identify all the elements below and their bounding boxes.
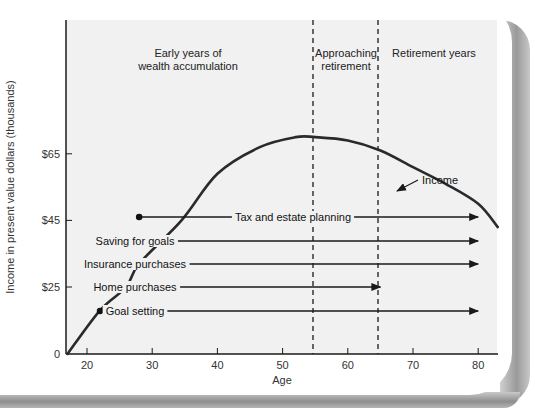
plot-area [66,20,497,354]
x-tick-label: 50 [276,359,288,371]
activity-label: Saving for goals [96,235,175,247]
region-label-approaching-line2: retirement [321,60,371,72]
income-lifecycle-chart: 20304050607080 0$25$45$65 Age Income in … [0,0,535,411]
activity-start-dot [136,214,143,221]
x-tick-label: 80 [472,359,484,371]
region-label-early-line2: wealth accumulation [137,60,238,72]
region-label-approaching-line1: Approaching [315,47,377,59]
x-tick-label: 30 [146,359,158,371]
y-tick-label: $65 [42,148,60,160]
activity-label: Tax and estate planning [235,211,351,223]
x-axis-title: Age [272,374,292,386]
region-label-early-line1: Early years of [154,47,222,59]
activity-label: Insurance purchases [84,258,187,270]
activity-start-dot [97,308,104,315]
x-tick-label: 60 [342,359,354,371]
activity-label: Home purchases [93,281,177,293]
x-tick-label: 70 [407,359,419,371]
region-label-retirement: Retirement years [392,47,476,59]
y-axis-title: Income in present value dollars (thousan… [4,80,16,293]
y-tick-label: 0 [54,348,60,360]
income-label: Income [422,174,458,186]
x-tick-label: 20 [81,359,93,371]
y-tick-label: $25 [42,281,60,293]
x-tick-label: 40 [211,359,223,371]
y-tick-label: $45 [42,214,60,226]
activity-label: Goal setting [106,305,165,317]
